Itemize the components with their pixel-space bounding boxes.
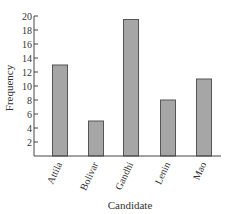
y-tick-label: 10	[22, 81, 32, 92]
bar-chart: 2468101214161820 AttilaBolivarGandhiLeni…	[0, 0, 228, 214]
bar-attila	[53, 65, 68, 156]
x-axis-label: Candidate	[108, 199, 153, 211]
bar-mao	[197, 79, 212, 156]
y-tick-label: 18	[22, 25, 32, 36]
x-tick-label: Bolivar	[78, 160, 101, 192]
x-tick-label: Lenin	[152, 160, 172, 186]
x-tick-label: Mao	[191, 160, 209, 181]
y-axis: 2468101214161820	[22, 11, 38, 157]
y-tick-label: 2	[27, 137, 32, 148]
y-tick-label: 12	[22, 67, 32, 78]
bar-gandhi	[124, 20, 139, 157]
y-tick-label: 8	[27, 95, 32, 106]
y-tick-label: 6	[27, 109, 32, 120]
x-tick-label: Gandhi	[113, 160, 136, 192]
y-axis-label: Frequency	[3, 64, 15, 111]
bar-lenin	[161, 100, 176, 156]
y-tick-label: 16	[22, 39, 32, 50]
bars	[53, 20, 212, 157]
y-tick-label: 14	[22, 53, 32, 64]
y-tick-label: 4	[27, 123, 32, 134]
x-axis: AttilaBolivarGandhiLeninMao	[34, 156, 221, 192]
y-tick-label: 20	[22, 11, 32, 22]
bar-bolivar	[89, 121, 104, 156]
x-tick-label: Attila	[45, 160, 65, 186]
